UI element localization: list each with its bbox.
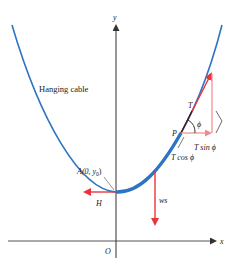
y-axis-label: y (112, 13, 117, 22)
origin-label: O (105, 247, 111, 256)
x-axis-label: x (219, 237, 224, 246)
hanging-cable-label: Hanging cable (39, 84, 89, 94)
tension-t-label: T (188, 101, 193, 110)
t-sin-label: T sin ϕ (194, 143, 216, 152)
point-p-label: P (171, 129, 177, 138)
cable-segment-AP (116, 133, 181, 192)
phi-label: ϕ (197, 120, 201, 129)
hanging-cable-diagram: Hanging cable y x O A(0, y0) P T ϕ T sin… (0, 0, 237, 265)
ws-label: ws (159, 196, 167, 205)
t-sin-brace (216, 111, 222, 133)
point-a-label: A(0, y0) (76, 167, 102, 177)
t-cos-label: T cos ϕ (171, 153, 194, 162)
phi-angle-arc (188, 120, 195, 133)
h-label: H (95, 199, 103, 208)
